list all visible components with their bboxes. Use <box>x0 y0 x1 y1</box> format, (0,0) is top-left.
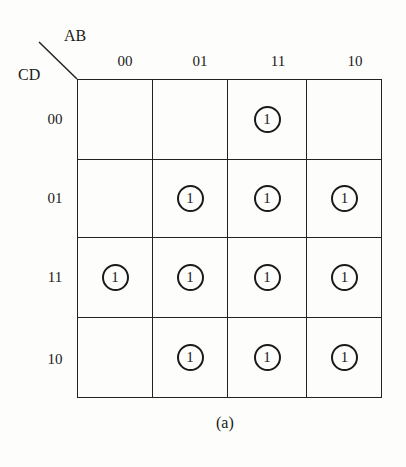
cell-cd10-ab11: 1 <box>228 317 306 397</box>
column-label-11: 11 <box>258 53 298 70</box>
circled-one-marker: 1 <box>102 264 129 291</box>
column-label-10: 10 <box>335 53 375 70</box>
circled-one-marker: 1 <box>331 264 358 291</box>
row-variable-label: CD <box>18 67 40 83</box>
circled-one-marker: 1 <box>177 264 204 291</box>
circled-one-marker: 1 <box>254 264 281 291</box>
cell-cd11-ab10: 1 <box>307 237 382 317</box>
circled-one-marker: 1 <box>331 344 358 371</box>
row-label-00: 00 <box>40 111 70 128</box>
cell-cd10-ab01: 1 <box>153 317 227 397</box>
kmap-grid: 1 1 1 1 1 1 1 1 1 1 1 <box>77 79 382 398</box>
column-label-00: 00 <box>105 53 145 70</box>
cell-cd11-ab01: 1 <box>153 237 227 317</box>
cell-cd10-ab10: 1 <box>307 317 382 397</box>
cell-cd01-ab01: 1 <box>153 159 227 237</box>
row-label-01: 01 <box>40 190 70 207</box>
row-label-11: 11 <box>40 269 70 286</box>
cell-cd01-ab10: 1 <box>307 159 382 237</box>
cell-cd11-ab11: 1 <box>228 237 306 317</box>
cell-cd01-ab11: 1 <box>228 159 306 237</box>
circled-one-marker: 1 <box>331 185 358 212</box>
row-label-10: 10 <box>40 351 70 368</box>
circled-one-marker: 1 <box>254 185 281 212</box>
cell-cd11-ab00: 1 <box>78 237 152 317</box>
circled-one-marker: 1 <box>177 185 204 212</box>
column-variable-label: AB <box>64 28 86 44</box>
circled-one-marker: 1 <box>254 106 281 133</box>
cell-cd00-ab11: 1 <box>228 80 306 159</box>
circled-one-marker: 1 <box>177 344 204 371</box>
circled-one-marker: 1 <box>254 344 281 371</box>
column-label-01: 01 <box>180 53 220 70</box>
figure-caption: (a) <box>216 414 234 432</box>
